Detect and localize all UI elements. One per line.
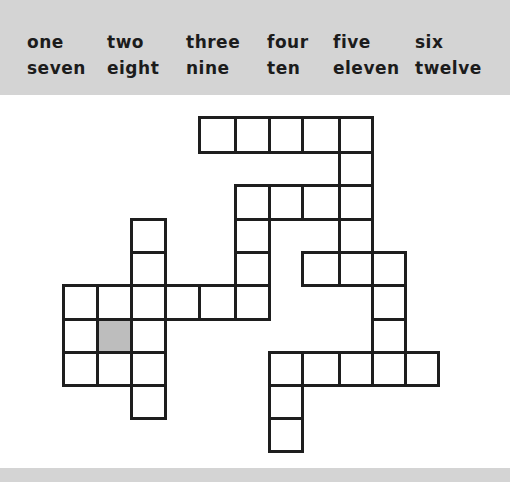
crossword-cell[interactable] bbox=[198, 284, 237, 321]
crossword-cell[interactable] bbox=[338, 351, 374, 387]
crossword-cell[interactable] bbox=[130, 318, 167, 354]
crossword-cell[interactable] bbox=[198, 116, 237, 154]
crossword-cell[interactable] bbox=[371, 351, 407, 387]
crossword-cell[interactable] bbox=[268, 116, 304, 154]
crossword-cell-shaded[interactable] bbox=[96, 318, 133, 354]
crossword-cell[interactable] bbox=[62, 284, 99, 321]
crossword-cell[interactable] bbox=[338, 116, 374, 154]
crossword-cell[interactable] bbox=[234, 218, 271, 254]
crossword-cell[interactable] bbox=[338, 151, 374, 187]
crossword-cell[interactable] bbox=[130, 284, 167, 321]
crossword-cell[interactable] bbox=[268, 184, 304, 221]
crossword-cell[interactable] bbox=[234, 251, 271, 287]
crossword-cell[interactable] bbox=[234, 184, 271, 221]
crossword-cell[interactable] bbox=[130, 218, 167, 254]
crossword-cell[interactable] bbox=[96, 284, 133, 321]
crossword-cell[interactable] bbox=[338, 251, 374, 287]
crossword-cell[interactable] bbox=[301, 116, 341, 154]
crossword-cell[interactable] bbox=[164, 284, 201, 321]
crossword-cell[interactable] bbox=[130, 384, 167, 420]
crossword-cell[interactable] bbox=[301, 184, 341, 221]
crossword-cell[interactable] bbox=[301, 251, 341, 287]
crossword-cell[interactable] bbox=[268, 351, 304, 387]
crossword-cell[interactable] bbox=[96, 351, 133, 387]
crossword-grid bbox=[0, 0, 510, 482]
crossword-cell[interactable] bbox=[234, 116, 271, 154]
crossword-cell[interactable] bbox=[268, 417, 304, 453]
crossword-cell[interactable] bbox=[371, 284, 407, 321]
crossword-cell[interactable] bbox=[371, 251, 407, 287]
crossword-cell[interactable] bbox=[234, 284, 271, 321]
crossword-cell[interactable] bbox=[130, 251, 167, 287]
crossword-cell[interactable] bbox=[268, 384, 304, 420]
crossword-cell[interactable] bbox=[62, 318, 99, 354]
crossword-cell[interactable] bbox=[371, 318, 407, 354]
footer-band bbox=[0, 468, 510, 482]
crossword-cell[interactable] bbox=[301, 351, 341, 387]
crossword-cell[interactable] bbox=[338, 218, 374, 254]
crossword-cell[interactable] bbox=[62, 351, 99, 387]
crossword-cell[interactable] bbox=[338, 184, 374, 221]
crossword-cell[interactable] bbox=[404, 351, 440, 387]
crossword-cell[interactable] bbox=[130, 351, 167, 387]
